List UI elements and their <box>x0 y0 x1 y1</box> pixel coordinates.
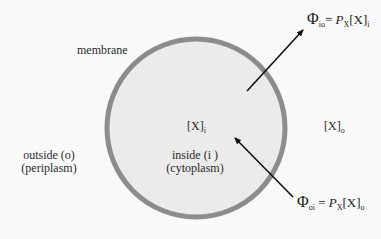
inside-concentration: [X]i <box>187 120 206 137</box>
equals-sign: = <box>325 12 336 27</box>
membrane-label: membrane <box>77 44 128 57</box>
inside-region-label: inside (i ) (cytoplasm) <box>163 149 227 175</box>
outside-conc-symbol: [X] <box>324 119 341 133</box>
concentration-subscript: i <box>367 20 369 29</box>
equals-sign: = <box>315 195 329 210</box>
permeability-symbol: P <box>329 195 337 210</box>
outside-region-label: outside (o) (periplasm) <box>18 149 80 175</box>
outside-concentration: [X]o <box>324 120 345 137</box>
influx-equation: Φoi = PX[X]o <box>297 193 365 212</box>
concentration-symbol: [X] <box>343 195 361 210</box>
outside-conc-subscript: o <box>341 126 345 135</box>
inside-conc-subscript: i <box>204 126 206 135</box>
concentration-subscript: o <box>361 203 365 212</box>
outside-label-line2: (periplasm) <box>18 162 80 175</box>
inside-label-line2: (cytoplasm) <box>163 162 227 175</box>
phi-symbol: Φ <box>307 10 319 27</box>
efflux-equation: Φio= PX[X]i <box>307 10 370 29</box>
phi-symbol: Φ <box>297 193 309 210</box>
inside-conc-symbol: [X] <box>187 119 204 133</box>
concentration-symbol: [X] <box>349 12 367 27</box>
